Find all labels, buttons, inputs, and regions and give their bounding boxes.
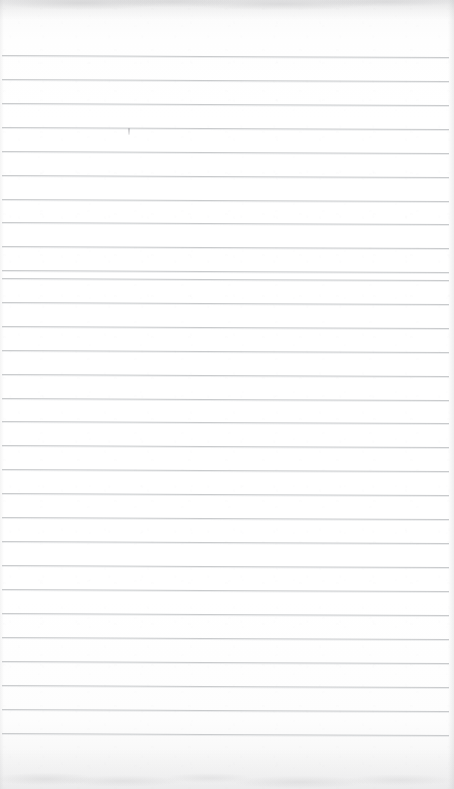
ruled-line: [2, 398, 449, 401]
scanned-page: [0, 0, 454, 789]
ruled-line: [2, 374, 449, 377]
ruled-line: [2, 565, 449, 568]
ruled-line: [2, 541, 449, 544]
ruled-line: [2, 637, 449, 640]
ruled-line: [2, 79, 449, 82]
ruled-line: [2, 278, 449, 281]
ruled-line: [2, 127, 449, 130]
ruled-line: [2, 55, 449, 58]
ruled-line: [2, 613, 449, 616]
ruled-line: [2, 103, 449, 106]
ruled-line: [2, 175, 449, 178]
ruled-line: [2, 151, 449, 154]
ruled-line: [2, 302, 449, 305]
ruled-line: [2, 589, 449, 592]
ruled-line: [2, 685, 449, 688]
ruled-line: [2, 661, 449, 664]
faint-pencil-mark: [128, 128, 130, 135]
ruled-line: [2, 199, 449, 202]
ruled-line: [2, 222, 449, 225]
ruled-line: [2, 326, 449, 329]
ruled-line: [2, 493, 449, 496]
ruled-line: [2, 350, 449, 353]
ruled-line: [2, 517, 449, 520]
ruled-line: [2, 270, 449, 273]
ruled-line: [2, 733, 449, 736]
ruled-line: [2, 709, 449, 712]
ruled-line: [2, 246, 449, 249]
ruled-line: [2, 469, 449, 472]
ruled-line: [2, 445, 449, 448]
ruled-line: [2, 421, 449, 424]
ruled-lines-layer: [0, 0, 454, 789]
